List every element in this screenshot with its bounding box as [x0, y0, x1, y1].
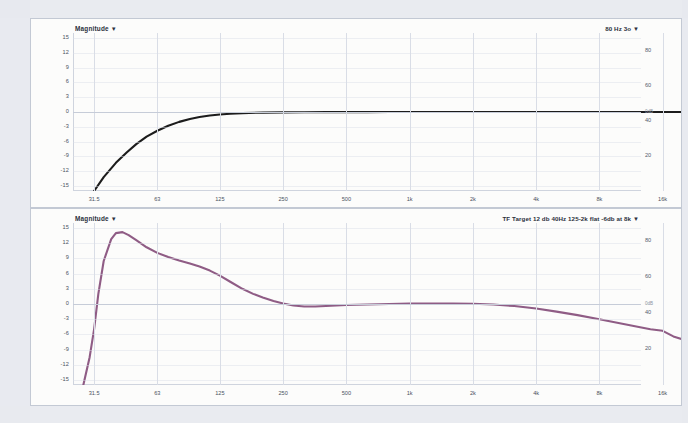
- gridline-horizontal: [73, 258, 641, 259]
- scan-blotch: [0, 0, 30, 423]
- y-axis-tick-label: -9: [64, 347, 69, 353]
- magnitude-chart-panel-bottom[interactable]: Magnitude ▼ TF Target 12 db 40Hz 125-2k …: [30, 208, 682, 406]
- y-axis-tick-label: 15: [63, 35, 69, 41]
- x-axis-tick-label: 2k: [470, 197, 476, 203]
- x-axis-tick-label: 31.5: [89, 197, 100, 203]
- panel-bottom-legend[interactable]: TF Target 12 db 40Hz 125-2k flat -6db at…: [502, 215, 639, 222]
- panel-top-title[interactable]: Magnitude ▼: [75, 25, 117, 32]
- gridline-horizontal: [73, 274, 641, 275]
- x-axis-tick-label: 2k: [470, 391, 476, 397]
- y-axis-tick-label: 12: [63, 241, 69, 247]
- y-axis-tick-label: -9: [64, 154, 69, 160]
- chevron-down-icon[interactable]: ▼: [111, 26, 117, 32]
- x-axis-tick-label: 1k: [407, 197, 413, 203]
- y-axis-right-tick-label: 20: [645, 346, 651, 352]
- panel-top-legend[interactable]: 80 Hz 3o ▼: [605, 25, 639, 32]
- x-axis-tick-label: 8k: [596, 197, 602, 203]
- y-axis-right-tick-label: 20: [645, 153, 651, 159]
- y-axis-tick-label: 6: [66, 80, 69, 86]
- scan-blotch: [682, 0, 688, 423]
- x-axis-tick-label: 250: [278, 197, 287, 203]
- x-axis-tick-label: 63: [154, 391, 160, 397]
- y-axis-tick-label: 12: [63, 50, 69, 56]
- panel-bottom-title-text: Magnitude: [75, 215, 109, 222]
- x-axis-tick-label: 125: [215, 197, 224, 203]
- y-axis-tick-label: 9: [66, 65, 69, 71]
- y-axis-tick-label: -3: [64, 124, 69, 130]
- panel-bottom-title[interactable]: Magnitude ▼: [75, 215, 117, 222]
- chevron-down-icon[interactable]: ▼: [111, 216, 117, 222]
- gridline-horizontal: [73, 171, 641, 172]
- y-axis-right-tick-label: 80: [645, 238, 651, 244]
- gridline-horizontal: [73, 243, 641, 244]
- x-axis-tick-label: 31.5: [89, 391, 100, 397]
- x-axis-tick-label: 125: [215, 391, 224, 397]
- gridline-horizontal: [73, 38, 641, 39]
- x-axis-tick-label: 4k: [533, 197, 539, 203]
- gridline-horizontal: [73, 53, 641, 54]
- y-axis-tick-label: 9: [66, 256, 69, 262]
- gridline-horizontal: [73, 380, 641, 381]
- gridline-horizontal: [73, 97, 641, 98]
- gridline-horizontal: [73, 289, 641, 290]
- gridline-horizontal: [73, 82, 641, 83]
- x-axis-tick-label: 500: [342, 391, 351, 397]
- panel-top-title-text: Magnitude: [75, 25, 109, 32]
- y-axis-right-tick-label: 80: [645, 48, 651, 54]
- x-axis-tick-label: 16k: [658, 391, 667, 397]
- x-axis-top: 31.5631252505001k2k4k8k16k: [73, 195, 641, 205]
- gridline-horizontal: [73, 228, 641, 229]
- y-axis-tick-label: -3: [64, 316, 69, 322]
- scan-blotch: [0, 406, 688, 423]
- y-axis-right-tick-label: 60: [645, 83, 651, 89]
- y-axis-tick-label: -6: [64, 139, 69, 145]
- y-axis-right-tick-label: 40: [645, 310, 651, 316]
- series-line: [83, 232, 682, 385]
- y-axis-tick-label: 3: [66, 286, 69, 292]
- chevron-down-icon[interactable]: ▼: [633, 216, 639, 222]
- y-axis-right-tick-label: 60: [645, 274, 651, 280]
- plot-area-bottom[interactable]: [73, 223, 641, 385]
- y-axis-left-bottom: 15129630-3-6-9-12-15: [49, 223, 69, 385]
- x-axis-tick-label: 500: [342, 197, 351, 203]
- x-axis-tick-label: 16k: [658, 197, 667, 203]
- scan-blotch: [0, 0, 688, 18]
- gridline-horizontal: [73, 319, 641, 320]
- series-line: [94, 112, 682, 191]
- gridline-horizontal: [73, 68, 641, 69]
- gridline-horizontal: [73, 156, 641, 157]
- zero-db-tag: 0dB: [645, 301, 653, 306]
- y-axis-tick-label: -15: [61, 183, 69, 189]
- y-axis-tick-label: 6: [66, 271, 69, 277]
- panel-bottom-legend-text: TF Target 12 db 40Hz 125-2k flat -6db at…: [502, 215, 631, 222]
- y-axis-tick-label: 15: [63, 225, 69, 231]
- gridline-horizontal: [73, 365, 641, 366]
- screenshot-page: Magnitude ▼ 80 Hz 3o ▼ 15129630-3-6-9-12…: [0, 0, 688, 423]
- panel-top-legend-text: 80 Hz 3o: [605, 25, 631, 32]
- gridline-horizontal: [73, 142, 641, 143]
- gridline-horizontal: [73, 186, 641, 187]
- x-axis-tick-label: 4k: [533, 391, 539, 397]
- y-axis-tick-label: -15: [61, 377, 69, 383]
- x-axis-tick-label: 1k: [407, 391, 413, 397]
- plot-area-top[interactable]: [73, 33, 641, 191]
- y-axis-right-tick-label: 40: [645, 118, 651, 124]
- gridline-horizontal: [73, 350, 641, 351]
- y-axis-tick-label: 3: [66, 94, 69, 100]
- y-axis-left-top: 15129630-3-6-9-12-15: [49, 33, 69, 191]
- y-axis-right-top: 806040200dB: [645, 33, 667, 191]
- magnitude-chart-panel-top[interactable]: Magnitude ▼ 80 Hz 3o ▼ 15129630-3-6-9-12…: [30, 18, 682, 208]
- y-axis-right-bottom: 806040200dB: [645, 223, 667, 385]
- y-axis-tick-label: -12: [61, 169, 69, 175]
- y-axis-tick-label: 0: [66, 109, 69, 115]
- gridline-zero: [73, 112, 641, 113]
- chevron-down-icon[interactable]: ▼: [633, 26, 639, 32]
- x-axis-bottom: 31.5631252505001k2k4k8k16k: [73, 389, 641, 399]
- gridline-horizontal: [73, 334, 641, 335]
- x-axis-tick-label: 63: [154, 197, 160, 203]
- x-axis-tick-label: 250: [278, 391, 287, 397]
- y-axis-tick-label: -6: [64, 332, 69, 338]
- y-axis-tick-label: 0: [66, 301, 69, 307]
- y-axis-tick-label: -12: [61, 362, 69, 368]
- gridline-horizontal: [73, 127, 641, 128]
